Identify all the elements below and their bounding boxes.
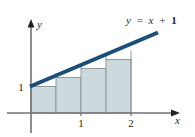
equation-part-y: y <box>125 14 131 26</box>
riemann-rect-3 <box>81 69 106 114</box>
equation-part-equals: = <box>137 14 143 26</box>
riemann-sum-figure: y x 1 1 2 y = x + 1 <box>0 0 195 137</box>
xtick-label-2: 2 <box>128 117 134 129</box>
equation-part-one: 1 <box>171 14 177 26</box>
riemann-rect-2 <box>56 78 81 114</box>
y-axis-label: y <box>36 18 42 30</box>
equation-part-plus: + <box>159 14 165 26</box>
riemann-rect-1 <box>31 87 56 114</box>
equation-part-x: x <box>148 14 154 26</box>
x-axis-label: x <box>174 114 180 126</box>
riemann-rect-4 <box>106 60 131 114</box>
xtick-label-1: 1 <box>78 117 84 129</box>
ytick-label-1: 1 <box>18 81 24 93</box>
